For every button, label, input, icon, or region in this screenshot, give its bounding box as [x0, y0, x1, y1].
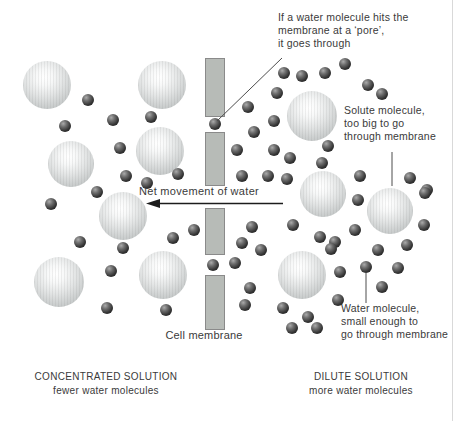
water-molecule: [114, 142, 126, 154]
water-molecule: [352, 194, 364, 206]
water-molecule: [286, 322, 298, 334]
water-molecule: [319, 67, 331, 79]
water-molecule: [107, 114, 119, 126]
water-molecule: [236, 170, 248, 182]
water-molecule: [248, 126, 260, 138]
solute-molecule: [139, 251, 187, 299]
dilute-solution-subtitle: more water molecules: [273, 384, 449, 398]
water-molecule: [117, 242, 129, 254]
water-molecule: [281, 173, 293, 185]
water-molecule: [418, 219, 430, 231]
osmosis-diagram: If a water molecule hits the membrane at…: [0, 0, 464, 421]
solute-molecule: [99, 192, 147, 240]
water-molecule: [74, 236, 86, 248]
water-molecule: [372, 244, 384, 256]
molecule-layer: [0, 0, 464, 421]
water-molecule: [376, 281, 388, 293]
water-molecule: [229, 257, 241, 269]
water-molecule: [376, 88, 388, 100]
water-molecule: [314, 231, 326, 243]
dilute-solution-title: DILUTE SOLUTION: [273, 370, 449, 384]
water-molecule: [239, 299, 251, 311]
water-molecule: [339, 58, 351, 70]
water-molecule: [91, 186, 103, 198]
water-molecule: [271, 87, 283, 99]
water-molecule: [277, 302, 289, 314]
water-molecule: [145, 111, 157, 123]
solute-molecule: [278, 251, 326, 299]
water-molecule: [45, 198, 57, 210]
water-molecule: [236, 237, 248, 249]
water-molecule: [362, 79, 374, 91]
water-molecule: [316, 157, 328, 169]
water-molecule: [242, 101, 254, 113]
concentrated-solution-subtitle: fewer water molecules: [18, 384, 194, 398]
water-molecule: [59, 120, 71, 132]
water-molecule: [354, 170, 366, 182]
pore-annotation: If a water molecule hits the membrane at…: [278, 11, 409, 50]
dilute-solution-caption: DILUTE SOLUTION more water molecules: [273, 370, 449, 398]
water-molecule: [392, 262, 404, 274]
solute-annotation: Solute molecule, too big to go through m…: [344, 104, 436, 143]
water-molecule: [105, 265, 117, 277]
net-movement-label: Net movement of water: [139, 185, 259, 198]
water-molecule: [404, 172, 416, 184]
water-molecule: [244, 282, 256, 294]
water-molecule: [401, 239, 413, 251]
water-molecule: [311, 322, 323, 334]
solute-molecule: [300, 171, 346, 217]
cell-membrane-label: Cell membrane: [149, 329, 259, 342]
page-edge-line: [452, 0, 453, 421]
water-molecule: [262, 170, 274, 182]
water-molecule: [160, 304, 172, 316]
water-molecule: [82, 94, 94, 106]
membrane-segment: [205, 208, 225, 255]
solute-molecule: [23, 61, 71, 109]
water-molecule: [255, 244, 267, 256]
membrane-segment: [205, 132, 225, 186]
water-molecule: [172, 168, 184, 180]
water-molecule: [207, 259, 219, 271]
membrane-segment: [205, 275, 225, 330]
water-molecule: [278, 67, 290, 79]
water-molecule: [268, 115, 280, 127]
water-molecule: [101, 302, 113, 314]
water-molecule: [334, 266, 346, 278]
solute-molecule: [34, 257, 84, 307]
membrane-segment: [205, 58, 225, 117]
water-molecule: [325, 243, 337, 255]
water-molecule: [120, 170, 132, 182]
water-molecule: [296, 70, 308, 82]
water-molecule: [284, 152, 296, 164]
water-molecule: [246, 221, 258, 233]
solute-molecule: [367, 188, 413, 234]
water-molecule: [360, 261, 372, 273]
water-molecule: [209, 118, 221, 130]
water-molecule: [419, 187, 431, 199]
solute-molecule: [48, 141, 94, 187]
solute-molecule: [138, 61, 186, 109]
water-annotation: Water molecule, small enough to go throu…: [341, 302, 448, 341]
concentrated-solution-title: CONCENTRATED SOLUTION: [18, 370, 194, 384]
water-molecule: [231, 144, 243, 156]
water-molecule: [302, 311, 314, 323]
water-molecule: [268, 144, 280, 156]
water-molecule: [349, 224, 361, 236]
solute-molecule: [287, 91, 337, 141]
water-molecule: [322, 140, 334, 152]
water-molecule: [167, 232, 179, 244]
concentrated-solution-caption: CONCENTRATED SOLUTION fewer water molecu…: [18, 370, 194, 398]
water-molecule: [287, 219, 299, 231]
water-molecule: [188, 224, 200, 236]
